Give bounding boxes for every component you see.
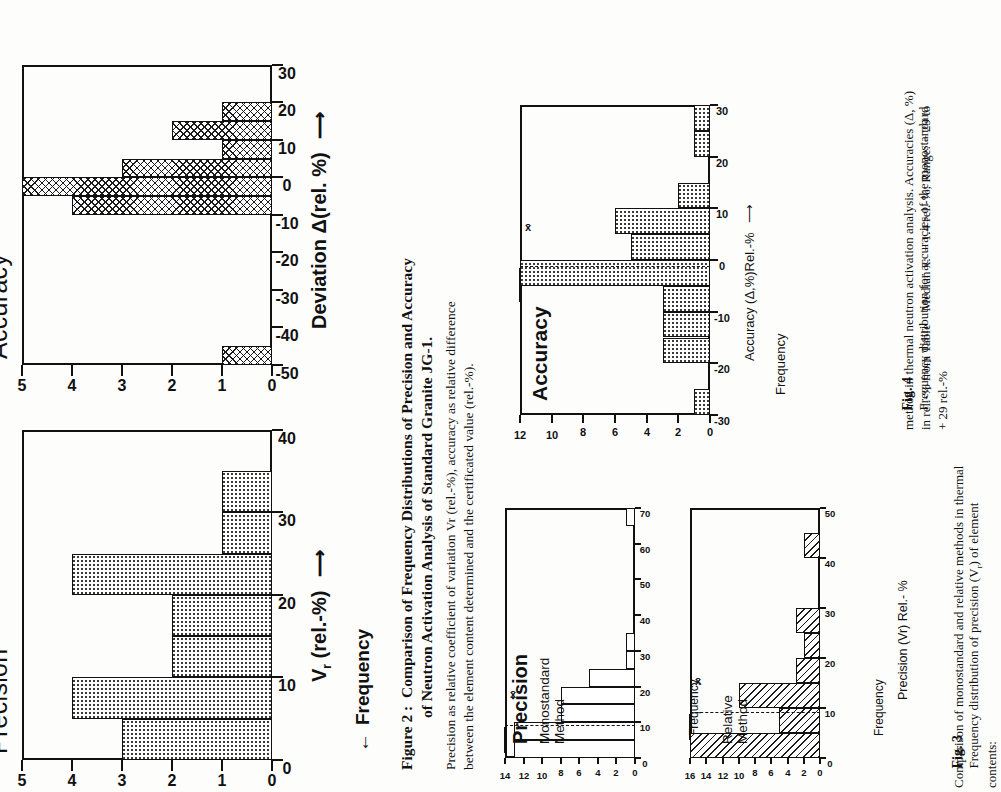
x-tick-label: 0	[642, 758, 647, 769]
histogram-bar	[72, 678, 272, 719]
y-tick-label: 6	[577, 767, 582, 778]
x-tick-label: -20	[275, 253, 298, 271]
histogram-bar	[694, 131, 710, 157]
y-tick	[504, 758, 506, 764]
fig3-caption-text-1: Frequency distribution of precision (V	[966, 568, 981, 768]
xlabel-text: Accuracy (Δ,%)Rel.-%	[742, 232, 757, 361]
y-tick	[615, 758, 617, 764]
y-tick-label: 6	[612, 426, 618, 438]
x-tick-label: 10	[278, 678, 296, 696]
median-leader-line	[504, 727, 506, 753]
y-tick-label: 0	[817, 767, 822, 778]
histogram-bar	[520, 260, 710, 286]
median-label: x̄	[695, 675, 701, 687]
x-tick	[272, 177, 283, 179]
histogram-bar	[514, 740, 635, 758]
y-tick	[221, 365, 223, 376]
fig3-caption-sub: r	[974, 565, 984, 568]
xlabel-sub: r	[320, 664, 334, 669]
x-tick-label: -20	[714, 363, 730, 375]
histogram-bar	[804, 533, 820, 558]
fig2-accuracy-xlabel: Deviation Δ(rel. %) ⟶	[308, 112, 331, 329]
fig4-ylabel: Frequency	[773, 334, 788, 395]
x-tick-label: 0	[283, 760, 292, 778]
histogram-bar	[796, 658, 820, 683]
y-tick-label: 4	[68, 772, 77, 790]
x-tick-label: 20	[716, 157, 728, 169]
x-tick-label: 20	[640, 687, 651, 698]
x-tick-label: 30	[716, 105, 728, 117]
histogram-bar	[222, 140, 272, 159]
fig3-relative-ylabel: Frequency	[872, 679, 886, 736]
y-tick	[523, 758, 525, 764]
y-tick	[803, 758, 805, 764]
y-tick	[578, 758, 580, 764]
fig2-accuracy-title: Accuracy	[0, 254, 13, 359]
x-tick-label: 0	[283, 178, 292, 196]
median-label: x̄	[525, 221, 531, 233]
histogram-bar	[72, 554, 272, 595]
histogram-bar	[626, 633, 635, 651]
fig3-caption-line-1: Fig. 3 Frequency distribution of precisi…	[934, 458, 1001, 788]
fig3-monostandard-panel: 01020304050607002468101214 x̄ Precision …	[505, 508, 635, 758]
y-tick	[71, 365, 73, 376]
y-tick	[770, 758, 772, 764]
x-tick-label: 40	[640, 615, 651, 626]
histogram-bar	[589, 669, 635, 687]
y-tick-label: 0	[268, 377, 277, 395]
y-tick-label: 10	[537, 770, 548, 781]
y-tick	[21, 760, 23, 771]
y-tick	[121, 760, 123, 771]
histogram-bar	[222, 471, 272, 512]
x-tick-label: 10	[825, 708, 836, 719]
xlabel-main: V	[308, 669, 330, 682]
arrow-left-icon: ←	[352, 725, 373, 752]
fig2-precision-title: Precision	[0, 648, 13, 754]
x-tick-label: 30	[825, 608, 836, 619]
y-tick	[271, 365, 273, 376]
histogram-bar	[626, 508, 635, 526]
y-tick	[171, 365, 173, 376]
bar-group	[690, 508, 820, 758]
y-tick-label: 4	[785, 767, 790, 778]
x-tick-label: -30	[275, 290, 298, 308]
x-tick-label: 30	[278, 65, 296, 83]
fig2-accuracy-panel: -50-40-30-20-100102030012345 Accuracy De…	[22, 65, 272, 365]
histogram-bar	[663, 338, 711, 364]
fig3-caption-line-2: Comparison of monostandard and relative …	[951, 466, 967, 788]
histogram-bar	[739, 683, 820, 708]
y-tick	[560, 758, 562, 764]
y-tick-label: 2	[675, 426, 681, 438]
y-tick-label: 1	[218, 377, 227, 395]
y-tick-label: 5	[18, 377, 27, 395]
y-tick	[705, 758, 707, 764]
y-tick-label: 16	[685, 770, 696, 781]
fig2-precision-panel: 010203040012345 Precision Vr (rel.-%) ⟶ …	[22, 430, 272, 760]
x-tick-label: 10	[716, 208, 728, 220]
fig2-precision-xlabel: Vr (rel.-%) ⟶	[308, 550, 334, 682]
histogram-bar	[122, 719, 272, 760]
y-tick	[677, 415, 679, 423]
xlabel-text: Deviation Δ(rel. %)	[308, 152, 330, 329]
x-tick-label: -10	[714, 312, 730, 324]
fig4-title: Accuracy	[528, 306, 552, 401]
fig2-caption-title-2: of Neutron Activation Analysis of Standa…	[418, 337, 436, 718]
y-tick	[754, 758, 756, 764]
bar-group	[22, 430, 272, 760]
y-tick-label: 8	[580, 426, 586, 438]
y-tick-label: 12	[514, 429, 526, 441]
y-tick-label: 10	[733, 770, 744, 781]
ylabel-text: Frequency	[352, 629, 373, 725]
y-tick	[722, 758, 724, 764]
y-tick-label: 8	[752, 767, 757, 778]
y-tick-label: 2	[168, 377, 177, 395]
histogram-bar	[222, 346, 272, 365]
x-tick-label: 20	[278, 103, 296, 121]
x-tick-label: 0	[827, 758, 832, 769]
y-tick	[21, 365, 23, 376]
y-tick	[519, 415, 521, 423]
histogram-bar	[222, 103, 272, 122]
histogram-bar	[694, 389, 710, 415]
bar-group	[22, 65, 272, 365]
y-tick	[541, 758, 543, 764]
